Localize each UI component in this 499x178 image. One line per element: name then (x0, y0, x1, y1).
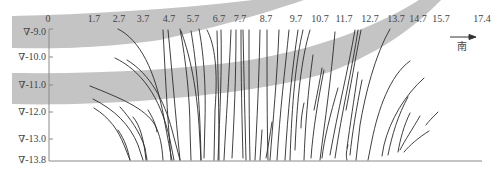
south-direction-indicator: 南 (450, 35, 476, 53)
x-tick-labels: 0 1.7 2.7 3.7 4.7 5.7 6.7 7.7 8.7 9.7 10… (46, 13, 491, 24)
x-tick-label: 2.7 (113, 13, 126, 24)
x-tick-label: 14.7 (409, 13, 427, 24)
upper-gray-stratum (12, 0, 320, 48)
direction-label: 南 (457, 40, 467, 52)
x-tick-label: 15.7 (432, 13, 450, 24)
x-tick-label: 0 (46, 13, 51, 24)
x-tick-label: 17.4 (473, 13, 491, 24)
arrow-head-icon (469, 35, 476, 40)
elevation-label: ∇-12.0 (18, 106, 46, 117)
x-tick-label: 5.7 (187, 13, 200, 24)
elevation-label: ∇-10.0 (18, 51, 46, 62)
x-tick-label: 9.7 (290, 13, 303, 24)
x-tick-label: 8.7 (260, 13, 273, 24)
x-tick-label: 7.7 (234, 13, 247, 24)
elevation-label: ∇-13.0 (18, 133, 46, 144)
x-tick-label: 12.7 (361, 13, 379, 24)
x-tick-label: 11.7 (335, 13, 352, 24)
fracture-cross-section-diagram: 0 1.7 2.7 3.7 4.7 5.7 6.7 7.7 8.7 9.7 10… (0, 0, 499, 178)
x-tick-label: 13.7 (387, 13, 405, 24)
x-tick-label: 3.7 (137, 13, 150, 24)
elevation-label: ∇-11.0 (19, 79, 46, 90)
x-tick-label: 6.7 (213, 13, 226, 24)
elevation-label: ∇-13.8 (18, 154, 46, 165)
elevation-label: ∇-9.0 (23, 26, 46, 37)
x-tick-label: 1.7 (88, 13, 101, 24)
x-tick-label: 4.7 (163, 13, 176, 24)
x-tick-label: 10.7 (311, 13, 329, 24)
